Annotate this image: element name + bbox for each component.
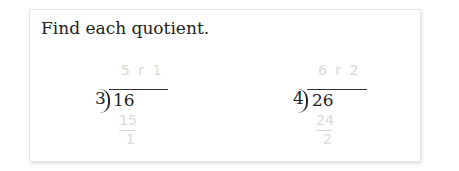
product: 24 <box>316 112 334 128</box>
instruction-heading: Find each quotient. <box>41 18 209 38</box>
dividend: 26 <box>312 90 334 110</box>
product: 15 <box>119 112 137 128</box>
quotient-answer: 6 r 2 <box>318 62 360 78</box>
quotient-answer: 5 r 1 <box>121 62 163 78</box>
dividend: 16 <box>113 90 135 110</box>
remainder: 2 <box>323 131 332 147</box>
remainder: 1 <box>126 131 135 147</box>
